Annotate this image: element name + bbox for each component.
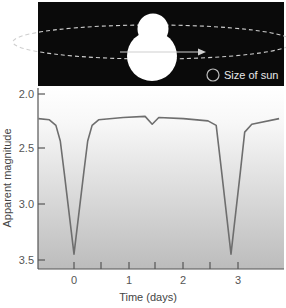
y-tick-label: 3.0 [19, 198, 34, 210]
eclipsing-binary-illustration: Size of sun [13, 2, 286, 86]
y-axis-title: Apparent magnitude [1, 128, 13, 227]
y-tick-label: 2.0 [19, 88, 34, 100]
light-curve-chart: 2.0 2.5 3.0 3.5 0 1 2 3 Time (days) Appa… [1, 88, 284, 303]
algol-figure: Size of sun 2.0 2.5 3.0 3.5 0 [0, 0, 286, 308]
y-tick-label: 3.5 [19, 254, 34, 266]
sun-size-legend-label: Size of sun [224, 69, 278, 81]
x-tick-label: 0 [71, 274, 77, 286]
x-axis-title: Time (days) [119, 291, 177, 303]
y-tick-label: 2.5 [19, 142, 34, 154]
primary-star [127, 31, 177, 81]
x-tick-label: 1 [126, 274, 132, 286]
x-tick-label: 3 [235, 274, 241, 286]
x-tick-label: 2 [180, 274, 186, 286]
